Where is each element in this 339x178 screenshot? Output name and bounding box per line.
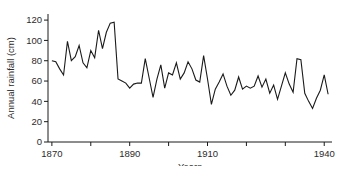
y-tick-label: 40 [31,96,42,107]
y-tick-label: 60 [31,75,42,86]
x-tick-label: 1940 [314,148,335,159]
y-tick-label: 100 [26,35,42,46]
y-tick-label: 120 [26,14,42,25]
x-tick-label: 1910 [197,148,218,159]
y-tick-label: 80 [31,55,42,66]
x-tick-label: 1890 [119,148,140,159]
y-axis: 020406080100120 Annual rainfall (cm) [5,14,48,147]
x-axis-tick-labels: 1870189019101940 [41,148,334,159]
x-axis-title: Years [178,161,202,166]
y-axis-title: Annual rainfall (cm) [5,37,16,119]
y-tick-label: 0 [37,136,42,147]
y-tick-label: 20 [31,116,42,127]
x-axis: 1870189019101940 Years [41,142,334,166]
x-tick-label: 1870 [41,148,62,159]
rainfall-line-chart: 020406080100120 Annual rainfall (cm) 187… [0,0,339,178]
rainfall-series-line [52,22,328,108]
y-axis-tick-labels: 020406080100120 [26,14,42,147]
y-axis-ticks [44,20,48,142]
chart-canvas: 020406080100120 Annual rainfall (cm) 187… [0,0,339,166]
x-axis-ticks [52,142,324,146]
